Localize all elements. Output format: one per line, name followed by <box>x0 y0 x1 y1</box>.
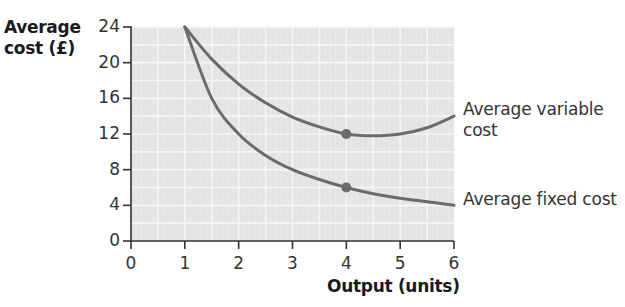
y-axis-label-line2: cost (£) <box>4 38 81 59</box>
x-tick-label: 0 <box>119 253 143 273</box>
x-tick-label: 2 <box>227 253 251 273</box>
y-tick-label: 12 <box>84 123 120 143</box>
x-tick-label: 6 <box>442 253 466 273</box>
y-tick-label: 4 <box>84 194 120 214</box>
afc-label: Average fixed cost <box>463 189 617 210</box>
afc-point-marker <box>341 183 351 193</box>
y-axis-label-line1: Average <box>4 17 81 38</box>
x-axis-label: Output (units) <box>327 276 460 296</box>
y-tick-label: 0 <box>84 230 120 250</box>
avc-label-line1: Average variable <box>463 99 604 120</box>
chart-plot <box>0 0 625 307</box>
y-tick-label: 16 <box>84 87 120 107</box>
y-tick-label: 8 <box>84 159 120 179</box>
y-tick-label: 20 <box>84 52 120 72</box>
x-tick-label: 5 <box>388 253 412 273</box>
avc-label-line2: cost <box>463 120 604 141</box>
x-tick-label: 1 <box>173 253 197 273</box>
avc-point-marker <box>341 129 351 139</box>
afc-label-line1: Average fixed cost <box>463 189 617 210</box>
x-tick-label: 3 <box>281 253 305 273</box>
avc-label: Average variable cost <box>463 99 604 141</box>
y-tick-label: 24 <box>84 16 120 36</box>
y-axis-label: Average cost (£) <box>4 17 81 59</box>
x-tick-label: 4 <box>334 253 358 273</box>
